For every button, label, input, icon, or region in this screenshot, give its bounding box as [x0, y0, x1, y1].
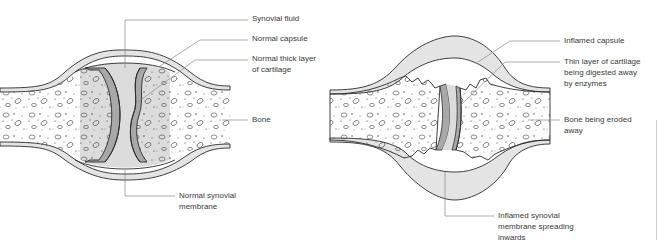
label-inflamed-capsule: Inflamed capsule — [564, 36, 624, 47]
label-normal-capsule: Normal capsule — [252, 34, 308, 45]
label-thin-cartilage-line2: being digested away — [564, 68, 637, 79]
label-bone: Bone — [252, 115, 271, 126]
inflamed-joint-diagram — [330, 36, 560, 216]
label-normal-synovial-membrane-line2: membrane — [179, 202, 217, 213]
normal-joint-diagram — [0, 20, 248, 196]
label-bone-eroded-line2: away — [564, 126, 583, 137]
label-normal-synovial-membrane-line1: Normal synovial — [179, 191, 236, 202]
label-thin-cartilage-line1: Thin layer of cartilage — [564, 57, 640, 68]
label-inflamed-membrane-line3: inwards — [498, 233, 526, 244]
label-synovial-fluid: Synovial fluid — [252, 14, 299, 25]
label-inflamed-membrane-line1: Inflamed synovial — [498, 211, 560, 222]
label-bone-eroded-line1: Bone being eroded — [564, 115, 632, 126]
label-normal-cartilage-line2: of cartilage — [252, 65, 291, 76]
label-normal-cartilage-line1: Normal thick layer — [252, 54, 316, 65]
label-inflamed-membrane-line2: membrane spreading — [498, 222, 574, 233]
left-eroded-bone-shape — [330, 76, 440, 158]
label-thin-cartilage-line3: by enzymes — [564, 79, 607, 90]
inflamed-capsule-shape — [330, 36, 550, 94]
